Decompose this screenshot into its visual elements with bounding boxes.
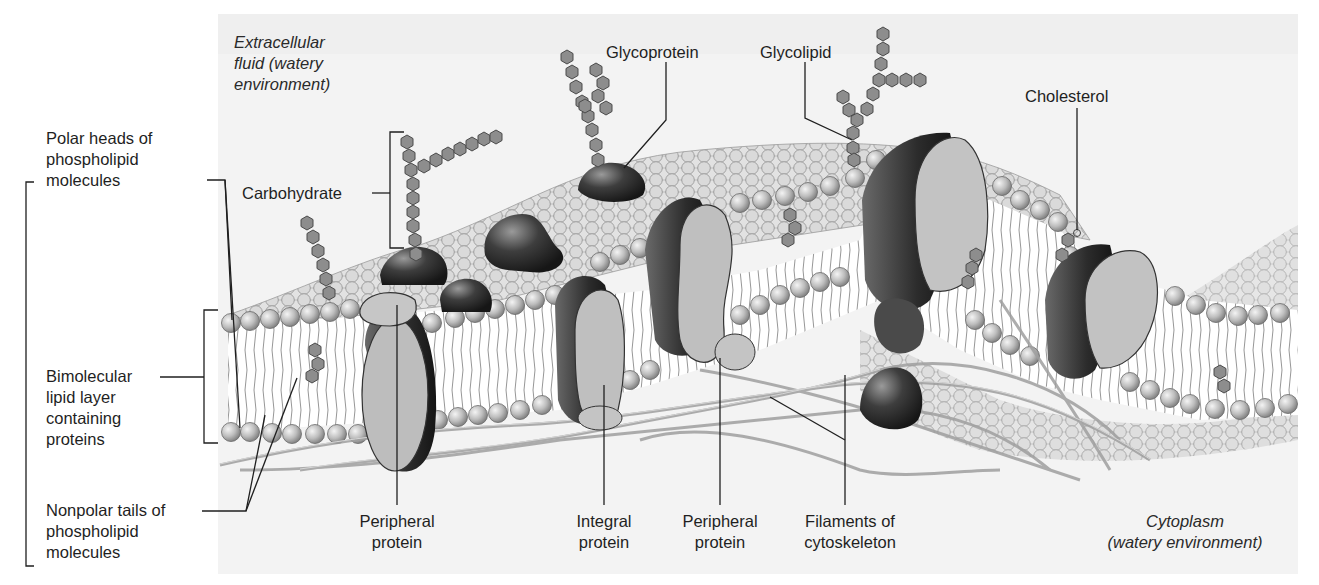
label-peripheral-protein-right: Peripheral protein xyxy=(669,511,771,553)
label-polar-heads: Polar heads of phospholipid molecules xyxy=(46,128,152,191)
label-integral-protein: Integral protein xyxy=(565,511,643,553)
label-cytoplasm: Cytoplasm (watery environment) xyxy=(1100,511,1270,553)
label-glycoprotein: Glycoprotein xyxy=(606,42,699,63)
label-peripheral-protein-left: Peripheral protein xyxy=(346,511,448,553)
label-bimolecular-lipid-layer: Bimolecular lipid layer containing prote… xyxy=(46,366,132,450)
label-glycolipid: Glycolipid xyxy=(760,42,832,63)
membrane-illustration xyxy=(0,0,1319,585)
label-carbohydrate: Carbohydrate xyxy=(242,183,342,204)
label-cytoskeleton-filaments: Filaments of cytoskeleton xyxy=(795,511,905,553)
label-extracellular-fluid: Extracellular fluid (watery environment) xyxy=(234,32,330,95)
label-cholesterol: Cholesterol xyxy=(1025,86,1108,107)
label-nonpolar-tails: Nonpolar tails of phospholipid molecules xyxy=(46,500,165,563)
